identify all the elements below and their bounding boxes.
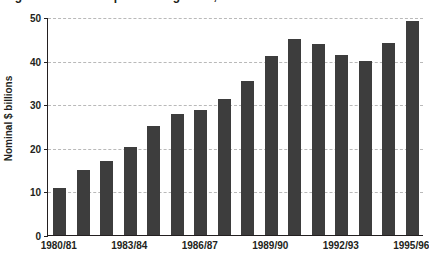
y-axis-title: Nominal $ billions xyxy=(0,0,18,236)
bar xyxy=(218,99,231,235)
bar xyxy=(147,126,160,235)
x-tick-label: 1986/87 xyxy=(182,240,218,251)
bar xyxy=(77,170,90,235)
bar xyxy=(241,81,254,235)
bar xyxy=(194,110,207,235)
y-axis-tick-labels: 01020304050 xyxy=(18,0,44,269)
chart-title-text: Figure: Nominal expenditure growth, 1980… xyxy=(4,0,327,3)
x-tick-label: 1995/96 xyxy=(393,240,429,251)
y-tick-label: 10 xyxy=(30,187,41,198)
bar xyxy=(359,61,372,235)
plot-area xyxy=(47,18,423,236)
bar xyxy=(100,161,113,235)
y-axis-title-label: Nominal $ billions xyxy=(4,75,15,161)
bar xyxy=(171,114,184,235)
bar xyxy=(288,39,301,235)
bar xyxy=(312,44,325,235)
y-tick-label: 40 xyxy=(30,56,41,67)
x-tick-label: 1989/90 xyxy=(252,240,288,251)
bar xyxy=(53,188,66,235)
cut-off-title: Figure: Nominal expenditure growth, 1980… xyxy=(0,0,428,6)
bar xyxy=(124,147,137,236)
y-tick-label: 30 xyxy=(30,100,41,111)
bar xyxy=(335,55,348,235)
bar-series xyxy=(48,18,423,235)
x-axis-tick-labels: 1980/811983/841986/871989/901992/931995/… xyxy=(47,240,423,260)
y-tick-label: 50 xyxy=(30,13,41,24)
y-tick-label: 20 xyxy=(30,143,41,154)
x-tick-label: 1983/84 xyxy=(111,240,147,251)
x-tick-label: 1992/93 xyxy=(323,240,359,251)
bar xyxy=(382,43,395,235)
y-tickmark xyxy=(44,236,48,237)
bar xyxy=(265,56,278,235)
bar xyxy=(406,21,419,236)
x-tick-label: 1980/81 xyxy=(41,240,77,251)
